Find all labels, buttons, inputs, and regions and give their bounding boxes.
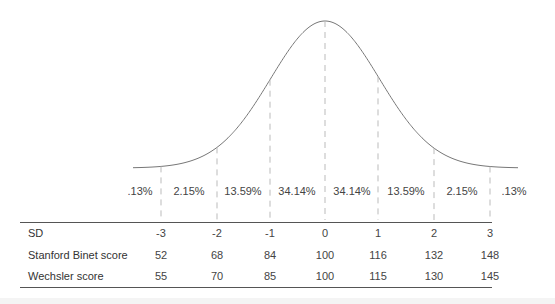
band-percentage: 34.14% — [278, 185, 315, 197]
band-percentage: .13% — [501, 185, 526, 197]
band-percentage: 13.59% — [224, 185, 261, 197]
band-percentage: 13.59% — [387, 185, 424, 197]
band-percentage: 34.14% — [333, 185, 370, 197]
sd-dashed-lines — [161, 21, 490, 220]
row-label: Stanford Binet score — [28, 249, 128, 261]
table-cell: 3 — [487, 227, 493, 239]
table-bottom-rule — [20, 287, 492, 288]
band-percentage: .13% — [127, 185, 152, 197]
band-percentage: 2.15% — [446, 185, 477, 197]
table-cell: 132 — [425, 249, 443, 261]
table-cell: 116 — [369, 249, 387, 261]
table-cell: 0 — [322, 227, 328, 239]
table-cell: 115 — [369, 270, 387, 282]
table-cell: 145 — [481, 270, 499, 282]
table-cell: 100 — [316, 249, 334, 261]
row-label: Wechsler score — [28, 270, 104, 282]
table-cell: -3 — [156, 227, 166, 239]
table-cell: 84 — [264, 249, 276, 261]
table-cell: 70 — [211, 270, 223, 282]
table-cell: 2 — [431, 227, 437, 239]
table-cell: 1 — [375, 227, 381, 239]
table-cell: 68 — [211, 249, 223, 261]
table-cell: 55 — [155, 270, 167, 282]
row-label: SD — [28, 227, 43, 239]
table-cell: -2 — [212, 227, 222, 239]
table-cell: 52 — [155, 249, 167, 261]
table-cell: 100 — [316, 270, 334, 282]
table-top-rule — [20, 222, 492, 223]
table-cell: 148 — [481, 249, 499, 261]
table-cell: -1 — [265, 227, 275, 239]
band-percentage: 2.15% — [173, 185, 204, 197]
table-cell: 85 — [264, 270, 276, 282]
table-cell: 130 — [425, 270, 443, 282]
bottom-band — [0, 298, 555, 304]
